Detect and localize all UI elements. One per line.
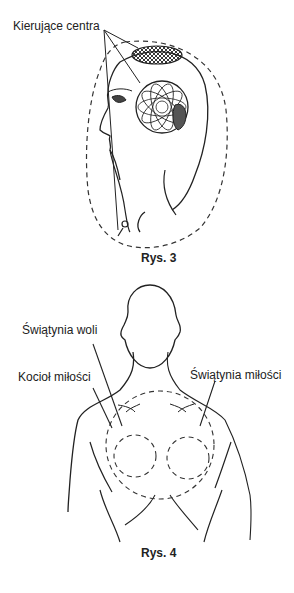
head-outline — [121, 285, 181, 368]
label-love-temple: Świątynia miłości — [190, 368, 281, 382]
will-temple-circle — [114, 435, 156, 477]
head-profile-drawing — [0, 0, 294, 280]
caption-figure-3: Rys. 3 — [141, 251, 176, 265]
love-temple-circle — [167, 437, 209, 479]
figure-4: Świątynia woli Kocioł miłości Świątynia … — [0, 280, 294, 593]
label-guiding-centers: Kierujące centra — [13, 19, 100, 33]
aura-outline — [87, 41, 228, 248]
label-love-cauldron: Kocioł miłości — [18, 370, 91, 384]
crown-center — [132, 46, 182, 64]
label-will-temple: Świątynia woli — [22, 323, 97, 337]
caption-figure-4: Rys. 4 — [141, 546, 176, 560]
love-cauldron-circle — [106, 391, 214, 499]
figure-3: Kierujące centra Rys. 3 — [0, 0, 294, 280]
